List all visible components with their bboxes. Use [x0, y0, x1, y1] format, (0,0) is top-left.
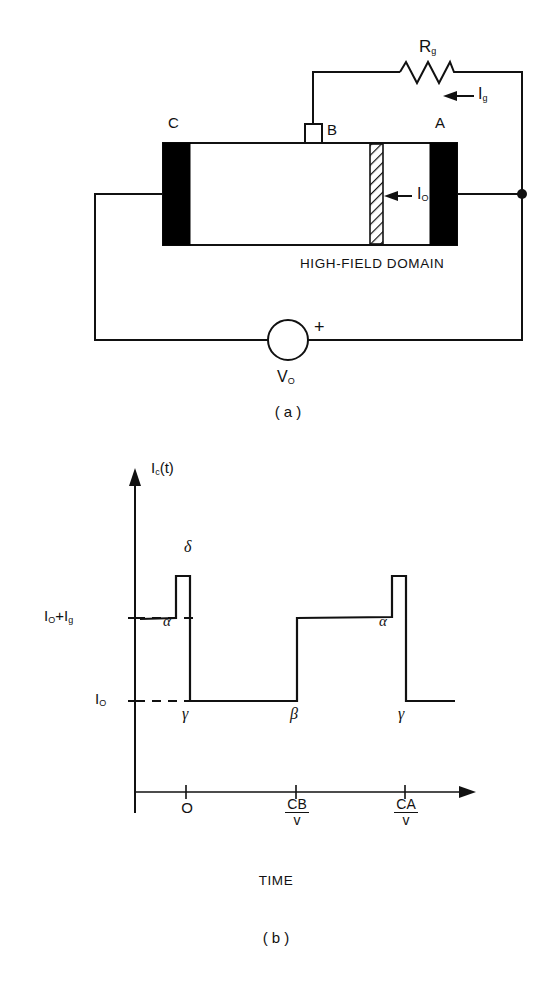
y-axis-title: Ic(t): [151, 460, 174, 477]
x-tick-label-ca-over-v: CAv: [386, 797, 426, 827]
panel-a-caption: ( a ): [258, 404, 318, 419]
segment-label-beta: β: [290, 706, 298, 722]
fraction-numerator: CB: [285, 797, 308, 813]
y-axis: [129, 468, 141, 813]
source-label: VO: [277, 369, 295, 386]
x-axis-title: TIME: [246, 874, 306, 888]
segment-label-alpha-1: α: [163, 614, 171, 629]
contact-c-block: [163, 143, 190, 245]
waveform-trace: [140, 576, 455, 701]
y-tick-label-i0: IO: [95, 691, 106, 708]
junction-dot-icon: [517, 189, 527, 199]
contact-a-label: A: [435, 115, 445, 130]
y-tick-label-i0-plus-ig: IO+Ig: [44, 608, 73, 625]
gate-current-label: Ig: [478, 86, 487, 103]
segment-label-gamma-1: γ: [182, 706, 188, 722]
panel-b-waveform-chart: [0, 458, 548, 878]
resistor-icon: [400, 62, 458, 83]
contact-a-block: [430, 143, 457, 245]
voltage-source-icon: [268, 320, 308, 360]
contact-b-block: [305, 124, 322, 143]
resistor-label: Rg: [419, 38, 436, 56]
fraction-denominator: v: [394, 813, 417, 828]
device-current-label: IO: [417, 186, 428, 203]
x-tick-label-origin: O: [180, 800, 194, 815]
contact-c-label: C: [168, 115, 179, 130]
device-body: [163, 143, 457, 245]
fraction-numerator: CA: [394, 797, 417, 813]
high-field-domain-label: HIGH-FIELD DOMAIN: [300, 257, 444, 271]
fraction-denominator: v: [285, 813, 308, 828]
segment-label-delta: δ: [184, 539, 191, 555]
panel-b-caption: ( b ): [246, 930, 306, 945]
arrow-left-icon-ig: [443, 91, 474, 101]
panel-a-circuit-schematic: [0, 0, 548, 430]
segment-label-alpha-2: α: [379, 614, 387, 629]
x-tick-label-cb-over-v: CBv: [277, 797, 317, 827]
source-polarity-label: +: [314, 318, 325, 336]
figure-container: Rg Ig IO C B A HIGH-FIELD DOMAIN + VO ( …: [0, 0, 548, 988]
contact-b-label: B: [327, 122, 337, 137]
segment-label-gamma-2: γ: [398, 706, 404, 722]
high-field-domain-band: [370, 144, 383, 244]
